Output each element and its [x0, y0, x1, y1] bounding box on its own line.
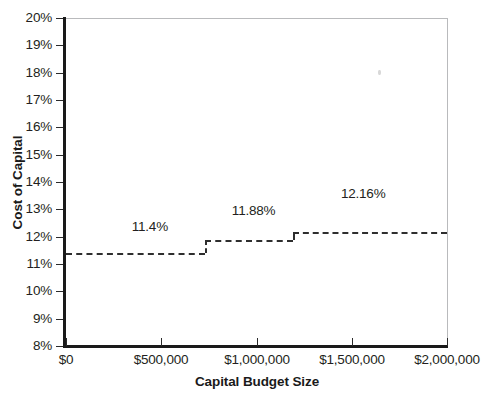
x-axis-line — [63, 345, 448, 348]
step-segment — [293, 232, 447, 234]
y-tick-mark — [56, 209, 63, 210]
plot-border-right — [447, 18, 448, 348]
y-tick-label-text: 10% — [0, 283, 52, 298]
step-riser — [205, 240, 207, 253]
y-tick-label-text: 13% — [0, 201, 52, 216]
y-tick-label-text: 19% — [0, 37, 52, 52]
y-tick-mark — [56, 45, 63, 46]
data-point-label: 11.4% — [90, 219, 210, 234]
y-tick-label-text: 17% — [0, 92, 52, 107]
y-tick-mark — [56, 73, 63, 74]
y-axis-title: Cost of Capital — [10, 113, 25, 253]
y-tick-label-text: 12% — [0, 229, 52, 244]
plot-area — [66, 18, 447, 347]
y-tick-label: 9% — [0, 311, 52, 327]
y-tick-label: 18% — [0, 65, 52, 81]
y-tick-label-text: 14% — [0, 174, 52, 189]
x-tick-mark — [352, 338, 353, 346]
data-point-label: 11.88% — [194, 203, 314, 218]
x-tick-mark — [447, 338, 448, 346]
x-tick-mark — [66, 338, 67, 346]
y-tick-label-text: 16% — [0, 119, 52, 134]
y-tick-label: 13% — [0, 201, 52, 217]
x-tick-label: $2,000,000 — [387, 352, 492, 367]
y-tick-mark — [56, 127, 63, 128]
y-tick-label: 11% — [0, 256, 52, 272]
y-tick-label: 15% — [0, 147, 52, 163]
y-tick-mark — [56, 100, 63, 101]
cost-of-capital-step-chart: 8%9%10%11%12%13%14%15%16%17%18%19%20% $0… — [0, 0, 492, 397]
y-tick-mark — [56, 182, 63, 183]
y-tick-label: 20% — [0, 10, 52, 26]
y-tick-mark — [56, 237, 63, 238]
y-tick-mark — [56, 18, 63, 19]
y-tick-label-text: 8% — [0, 338, 52, 353]
x-tick-mark — [257, 338, 258, 346]
x-axis-title: Capital Budget Size — [66, 374, 448, 389]
y-tick-mark — [56, 264, 63, 265]
y-tick-label: 17% — [0, 92, 52, 108]
x-tick-mark — [161, 338, 162, 346]
y-tick-label: 10% — [0, 283, 52, 299]
y-tick-mark — [56, 319, 63, 320]
step-riser — [293, 232, 295, 240]
y-tick-label-text: 15% — [0, 147, 52, 162]
step-segment — [205, 240, 293, 242]
y-tick-label: 16% — [0, 119, 52, 135]
y-tick-label: 14% — [0, 174, 52, 190]
y-tick-label-text: 18% — [0, 65, 52, 80]
plot-border-top — [66, 18, 448, 19]
y-tick-label: 19% — [0, 37, 52, 53]
y-tick-label-text: 20% — [0, 10, 52, 25]
y-axis-line — [63, 17, 66, 348]
y-tick-mark — [56, 291, 63, 292]
y-tick-label-text: 11% — [0, 256, 52, 271]
y-tick-label: 12% — [0, 229, 52, 245]
y-tick-mark — [56, 346, 63, 347]
y-tick-mark — [56, 155, 63, 156]
scan-artifact-speck — [378, 70, 381, 75]
step-segment — [66, 253, 205, 255]
y-tick-label-text: 9% — [0, 311, 52, 326]
data-point-label: 12.16% — [303, 186, 423, 201]
